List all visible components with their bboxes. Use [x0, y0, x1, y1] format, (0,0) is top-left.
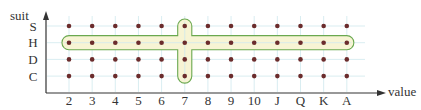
card-point-4H	[113, 40, 118, 45]
card-point-9H	[229, 40, 234, 45]
x-axis-label: value	[388, 84, 416, 99]
value-tick-label: 3	[89, 93, 96, 108]
card-point-KH	[321, 40, 326, 45]
card-point-2H	[67, 40, 72, 45]
value-tick-label: A	[342, 93, 352, 108]
value-tick-label: K	[319, 93, 329, 108]
card-point-10S	[252, 24, 257, 29]
card-point-2C	[67, 74, 72, 79]
card-point-8S	[206, 24, 211, 29]
card-point-AD	[345, 57, 350, 62]
card-point-JH	[275, 40, 280, 45]
suit-tick-label: S	[29, 19, 36, 34]
card-point-10H	[252, 40, 257, 45]
card-point-4D	[113, 57, 118, 62]
card-point-5D	[136, 57, 141, 62]
card-point-QC	[298, 74, 303, 79]
card-point-KD	[321, 57, 326, 62]
card-point-9S	[229, 24, 234, 29]
card-point-5H	[136, 40, 141, 45]
card-point-3H	[90, 40, 95, 45]
suit-tick-label: H	[28, 35, 37, 50]
grid-lines	[47, 16, 365, 92]
card-point-2S	[67, 24, 72, 29]
card-point-3D	[90, 57, 95, 62]
value-tick-label: 7	[182, 93, 189, 108]
card-point-JC	[275, 74, 280, 79]
value-tick-label: 4	[112, 93, 119, 108]
value-tick-labels: 2345678910JQKA	[66, 93, 352, 108]
card-point-KS	[321, 24, 326, 29]
card-point-9C	[229, 74, 234, 79]
card-point-QH	[298, 40, 303, 45]
y-axis-label: suit	[10, 8, 29, 23]
card-point-6D	[159, 57, 164, 62]
card-point-AC	[345, 74, 350, 79]
value-tick-label: 8	[205, 93, 212, 108]
card-point-4C	[113, 74, 118, 79]
card-point-KC	[321, 74, 326, 79]
card-point-8D	[206, 57, 211, 62]
value-tick-label: 6	[158, 93, 165, 108]
y-axis-arrow-icon	[43, 11, 49, 20]
value-tick-label: Q	[296, 93, 306, 108]
card-point-3S	[90, 24, 95, 29]
value-tick-label: 2	[66, 93, 73, 108]
card-point-7C	[182, 74, 187, 79]
card-point-5C	[136, 74, 141, 79]
card-point-AH	[345, 40, 350, 45]
value-tick-label: J	[275, 93, 280, 108]
value-tick-label: 5	[135, 93, 142, 108]
card-point-7D	[182, 57, 187, 62]
card-point-4S	[113, 24, 118, 29]
card-point-6H	[159, 40, 164, 45]
card-point-5S	[136, 24, 141, 29]
card-point-10D	[252, 57, 257, 62]
card-point-7H	[182, 40, 187, 45]
diagram-canvas: suit value SHDC 2345678910JQKA	[0, 0, 421, 110]
card-point-QD	[298, 57, 303, 62]
value-tick-label: 9	[228, 93, 235, 108]
card-point-8C	[206, 74, 211, 79]
card-point-2D	[67, 57, 72, 62]
card-point-6S	[159, 24, 164, 29]
card-point-QS	[298, 24, 303, 29]
card-point-3C	[90, 74, 95, 79]
suit-tick-label: C	[29, 69, 38, 84]
x-axis-arrow-icon	[377, 90, 386, 96]
card-point-10C	[252, 74, 257, 79]
card-point-AS	[345, 24, 350, 29]
card-point-9D	[229, 57, 234, 62]
card-point-6C	[159, 74, 164, 79]
card-point-JS	[275, 24, 280, 29]
value-tick-label: 10	[248, 93, 261, 108]
axes: suit value	[10, 8, 416, 99]
card-point-JD	[275, 57, 280, 62]
card-point-7S	[182, 24, 187, 29]
card-grid-diagram: suit value SHDC 2345678910JQKA	[0, 0, 421, 110]
card-point-8H	[206, 40, 211, 45]
suit-tick-label: D	[28, 52, 37, 67]
suit-tick-labels: SHDC	[28, 19, 37, 84]
